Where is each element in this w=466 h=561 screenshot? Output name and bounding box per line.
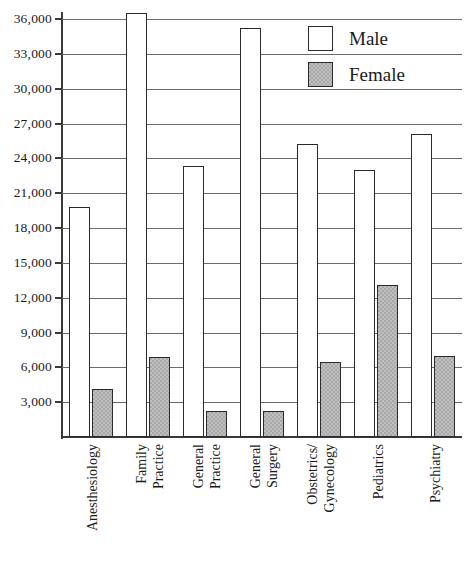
bar-group [233, 19, 290, 437]
bar-male[interactable] [240, 28, 261, 437]
x-axis-label-line: Obstetrics/ [306, 444, 320, 505]
x-axis-label-line: Psychiatry [429, 444, 443, 503]
x-axis-label: Anesthesiology [62, 440, 119, 561]
bar-female[interactable] [434, 356, 455, 437]
bar-female[interactable] [263, 411, 284, 437]
y-axis-tick-label: 21,000 [0, 186, 52, 199]
x-axis-label: FamilyPractice [119, 440, 176, 561]
y-axis-tick-label: 15,000 [0, 256, 52, 269]
x-axis-label-line: General [249, 444, 263, 488]
bar-male[interactable] [183, 166, 204, 437]
x-axis-label: Psychiatry [405, 440, 462, 561]
bar-male[interactable] [69, 207, 90, 437]
x-axis-label-line: Gynecology [323, 444, 337, 512]
y-axis-tick-label: 18,000 [0, 221, 52, 234]
bar-female[interactable] [149, 357, 170, 437]
bar-chart: 3,0006,0009,00012,00015,00018,00021,0002… [0, 0, 466, 561]
bar-female[interactable] [377, 285, 398, 437]
legend-swatch-female-icon [308, 62, 333, 87]
y-axis-tick-label: 27,000 [0, 117, 52, 130]
legend-item-male[interactable]: Male [308, 20, 456, 56]
bar-female[interactable] [206, 411, 227, 437]
chart-legend: Male Female [308, 20, 456, 92]
y-axis-tick-label: 12,000 [0, 291, 52, 304]
bar-group [62, 19, 119, 437]
y-axis-tick-label: 36,000 [0, 12, 52, 25]
bar-male[interactable] [354, 170, 375, 437]
legend-item-female[interactable]: Female [308, 56, 456, 92]
y-axis-tick-label: 9,000 [0, 326, 52, 339]
bar-female[interactable] [92, 389, 113, 437]
x-axis-label: Pediatrics [348, 440, 405, 561]
legend-swatch-male-icon [308, 26, 333, 51]
x-axis-label: Obstetrics/Gynecology [291, 440, 348, 561]
x-axis-label-line: Practice [152, 444, 166, 489]
y-axis-tick-label: 6,000 [0, 360, 52, 373]
y-axis-tick-label: 24,000 [0, 151, 52, 164]
x-axis-label-line: General [192, 444, 206, 488]
legend-label-female: Female [349, 65, 405, 84]
legend-label-male: Male [349, 29, 388, 48]
x-axis-label-line: Practice [209, 444, 223, 489]
y-axis-tick-label: 30,000 [0, 82, 52, 95]
bar-male[interactable] [411, 134, 432, 437]
bar-male[interactable] [126, 13, 147, 437]
y-axis-tick-label: 3,000 [0, 395, 52, 408]
bar-group [176, 19, 233, 437]
x-axis-label: GeneralPractice [176, 440, 233, 561]
x-axis-label-line: Anesthesiology [86, 444, 100, 531]
y-axis-tick-label: 33,000 [0, 47, 52, 60]
bar-male[interactable] [297, 144, 318, 437]
bar-female[interactable] [320, 362, 341, 437]
x-axis-label-line: Family [135, 444, 149, 484]
x-axis-labels: AnesthesiologyFamilyPracticeGeneralPract… [62, 440, 462, 561]
x-axis-label: GeneralSurgery [233, 440, 290, 561]
x-axis-label-line: Pediatrics [372, 444, 386, 499]
bar-group [119, 19, 176, 437]
x-axis-label-line: Surgery [266, 444, 280, 488]
